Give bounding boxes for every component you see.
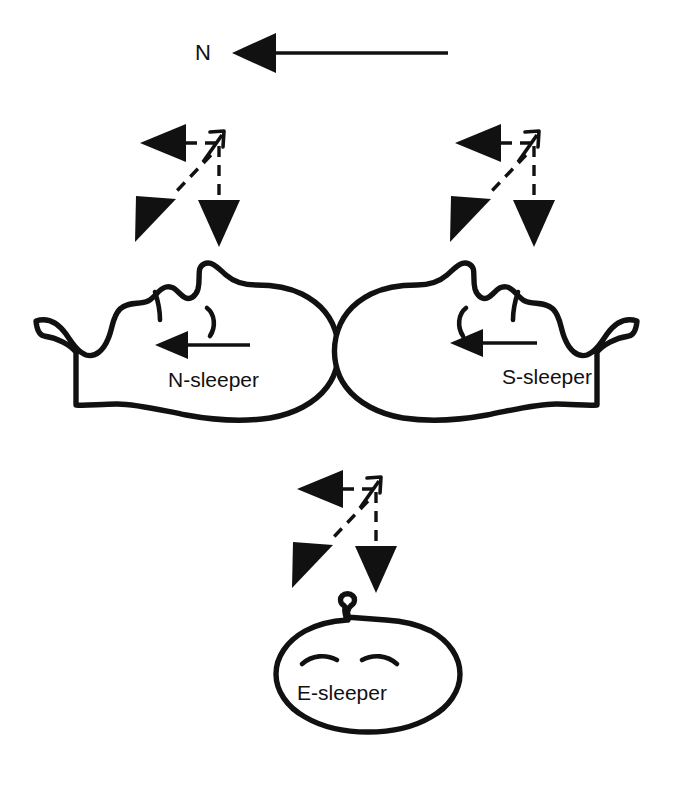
- e-sleeper-figure: E-sleeper: [276, 594, 460, 732]
- north-label: N: [195, 40, 211, 65]
- cluster-e-southwest-dash: [329, 501, 368, 542]
- cluster-s-southwest-arrow-icon: [450, 196, 491, 242]
- n-sleeper-label: N-sleeper: [168, 368, 259, 391]
- cluster-s-south-arrow-icon: [513, 200, 555, 247]
- north-arrow-head-icon: [232, 33, 276, 73]
- cluster-e-west-arrow-icon: [297, 470, 343, 508]
- s-sleeper-figure: S-sleeper: [334, 263, 637, 420]
- s-sleeper-label: S-sleeper: [502, 365, 592, 388]
- cluster-e-south-arrow-icon: [355, 546, 397, 593]
- cluster-n-southwest-arrow-icon: [135, 196, 176, 242]
- cluster-n-west-arrow-icon: [140, 124, 186, 162]
- cluster-s-southwest-dash: [487, 155, 526, 196]
- arrow-cluster-n-sleeper: [135, 124, 240, 247]
- north-reference-group: N: [195, 33, 448, 73]
- arrow-cluster-e-sleeper: [292, 470, 397, 593]
- arrow-cluster-s-sleeper: [450, 124, 555, 247]
- diagram-root: N: [0, 0, 673, 788]
- sleeper-orientation-diagram: N: [0, 0, 673, 788]
- n-sleeper-figure: N-sleeper: [36, 263, 339, 420]
- cluster-s-west-arrow-icon: [455, 124, 501, 162]
- cluster-n-southwest-dash: [172, 155, 211, 196]
- e-sleeper-label: E-sleeper: [297, 681, 387, 704]
- cluster-e-southwest-arrow-icon: [292, 542, 333, 588]
- cluster-n-south-arrow-icon: [198, 200, 240, 247]
